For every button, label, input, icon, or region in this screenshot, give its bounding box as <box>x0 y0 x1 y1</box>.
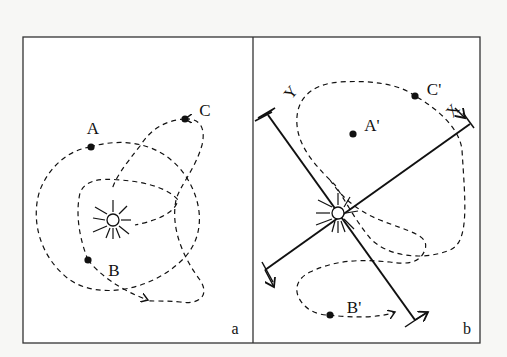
point-a-prime-label: A' <box>364 116 379 135</box>
point-c <box>181 115 188 122</box>
point-a-prime <box>349 130 356 137</box>
point-a <box>87 143 94 150</box>
point-c-prime <box>411 92 418 99</box>
point-b <box>84 256 91 263</box>
panel-b-label: b <box>463 320 471 337</box>
point-b-label: B <box>108 261 119 280</box>
figure-frame <box>23 37 480 343</box>
point-a-label: A <box>87 119 100 138</box>
point-c-prime-label: C' <box>427 80 441 99</box>
point-c-label: C <box>199 101 210 120</box>
panel-a-label: a <box>231 320 238 337</box>
point-b-prime-label: B' <box>347 298 361 317</box>
diagram-figure: A B C a Y X <box>0 0 507 357</box>
point-b-prime <box>326 311 333 318</box>
